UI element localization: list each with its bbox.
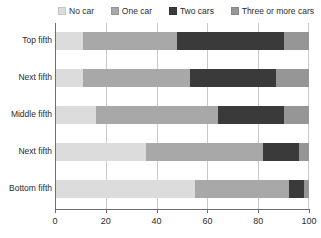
x-tick-40 [157, 209, 158, 213]
bar-segment-no-car [55, 69, 83, 87]
bar-segment-three-or-more-cars [304, 180, 309, 198]
legend-label-two-cars: Two cars [180, 6, 214, 16]
legend-label-three-or-more-cars: Three or more cars [242, 6, 314, 16]
table-row [55, 106, 309, 124]
y-axis-labels: Top fifth Next fifth Middle fifth Next f… [0, 23, 52, 209]
bar-segment-three-or-more-cars [299, 143, 309, 161]
legend-item-one-car: One car [111, 6, 152, 16]
x-tick-100 [309, 209, 310, 213]
x-axis-label-40: 40 [152, 216, 162, 227]
bar-segment-one-car [146, 143, 263, 161]
legend-swatch-one-car [111, 7, 119, 15]
legend-swatch-two-cars [169, 7, 177, 15]
y-axis-line [55, 23, 56, 210]
bar-segment-three-or-more-cars [284, 32, 309, 50]
legend-item-two-cars: Two cars [169, 6, 214, 16]
table-row [55, 143, 309, 161]
bar-segment-two-cars [263, 143, 299, 161]
table-row [55, 69, 309, 87]
bar-segment-two-cars [289, 180, 304, 198]
bar-segment-two-cars [190, 69, 276, 87]
y-axis-label-next-fifth-2: Next fifth [0, 72, 52, 82]
x-axis-label-80: 80 [253, 216, 263, 227]
bar-segment-three-or-more-cars [284, 106, 309, 124]
plot-area [55, 23, 309, 209]
legend-swatch-no-car [58, 7, 66, 15]
bar-segment-one-car [83, 32, 177, 50]
y-axis-label-top-fifth: Top fifth [0, 35, 52, 45]
bar-segment-no-car [55, 143, 146, 161]
x-axis-labels: 0 20 40 60 80 100 [0, 216, 321, 230]
bar-segment-no-car [55, 180, 195, 198]
stacked-bar-chart: No car One car Two cars Three or more ca… [0, 0, 321, 238]
bar-segment-no-car [55, 106, 96, 124]
chart-legend: No car One car Two cars Three or more ca… [58, 4, 314, 18]
legend-swatch-three-or-more-cars [231, 7, 239, 15]
table-row [55, 32, 309, 50]
x-axis-label-100: 100 [301, 216, 316, 227]
bar-segment-one-car [83, 69, 190, 87]
x-tick-80 [258, 209, 259, 213]
bar-segment-one-car [96, 106, 218, 124]
y-axis-label-middle-fifth: Middle fifth [0, 109, 52, 119]
bar-segment-three-or-more-cars [276, 69, 309, 87]
bar-segment-two-cars [218, 106, 284, 124]
table-row [55, 180, 309, 198]
y-axis-label-next-fifth-4: Next fifth [0, 146, 52, 156]
y-axis-label-bottom-fifth: Bottom fifth [0, 183, 52, 193]
legend-item-three-or-more-cars: Three or more cars [231, 6, 314, 16]
x-tick-0 [55, 209, 56, 213]
x-tick-60 [207, 209, 208, 213]
x-axis-line [55, 209, 310, 210]
x-axis-label-20: 20 [101, 216, 111, 227]
bar-segment-one-car [195, 180, 289, 198]
legend-label-no-car: No car [69, 6, 94, 16]
bar-segment-two-cars [177, 32, 284, 50]
legend-label-one-car: One car [122, 6, 152, 16]
x-axis-label-0: 0 [52, 216, 57, 227]
x-tick-20 [106, 209, 107, 213]
x-axis-label-60: 60 [202, 216, 212, 227]
bar-segment-no-car [55, 32, 83, 50]
legend-item-no-car: No car [58, 6, 94, 16]
